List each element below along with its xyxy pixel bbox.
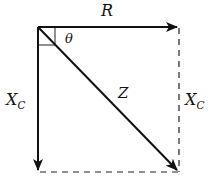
angle-theta-label: θ	[65, 32, 73, 45]
reactance-left-main: X	[6, 90, 17, 109]
reactance-left-label: XC	[6, 92, 25, 110]
resistance-label: R	[101, 3, 113, 19]
impedance-label: Z	[118, 86, 128, 101]
impedance-vector-arrow	[38, 27, 177, 170]
reactance-right-label: XC	[185, 92, 204, 110]
reactance-left-subscript: C	[17, 99, 25, 111]
phasor-diagram: R θ Z XC XC	[0, 0, 219, 190]
reactance-right-main: X	[185, 90, 196, 109]
reactance-right-subscript: C	[196, 99, 204, 111]
